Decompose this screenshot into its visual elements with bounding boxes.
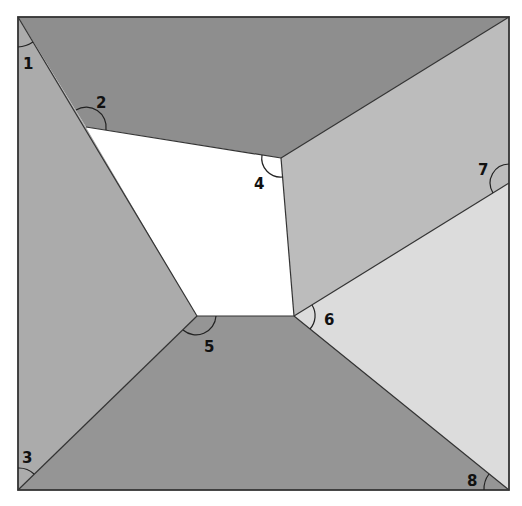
angle-label-8: 8 xyxy=(467,472,477,490)
angle-label-7: 7 xyxy=(478,161,488,179)
angle-label-3: 3 xyxy=(22,449,32,467)
angle-label-4: 4 xyxy=(254,175,264,193)
angle-diagram: 1 2 3 4 5 6 7 8 xyxy=(0,0,522,506)
angle-label-1: 1 xyxy=(23,55,33,73)
angle-label-6: 6 xyxy=(324,311,334,329)
angle-label-2: 2 xyxy=(96,94,106,112)
angle-label-5: 5 xyxy=(204,338,214,356)
